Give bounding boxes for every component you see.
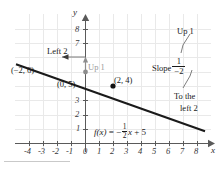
x-tick-neg1: -1 (66, 147, 73, 156)
equation-plus: + (134, 127, 139, 137)
slope-word: Slope (152, 63, 171, 73)
equation-fraction: 12 (122, 123, 128, 140)
slope-denominator: −2 (172, 67, 185, 76)
x-tick-6: 6 (166, 147, 170, 156)
point-label-0-5: (0, 5) (57, 80, 75, 89)
annotation-left-2-right: left 2 (180, 104, 198, 113)
function-equation: f(x) = −12x + 5 (94, 123, 146, 140)
annotation-up-1: Up 1 (177, 27, 194, 36)
y-tick-3: 3 (75, 96, 79, 105)
y-axis-label: y (73, 8, 77, 17)
x-tick-3: 3 (124, 147, 128, 156)
x-axis-label: x (211, 146, 215, 155)
annotation-slope: Slope1−2 (152, 57, 185, 77)
x-tick-5: 5 (152, 147, 156, 156)
annotation-left-2: Left 2 (47, 47, 68, 56)
construction-arrows (62, 54, 88, 72)
footer-divider (4, 161, 70, 162)
y-tick-7: 7 (75, 39, 79, 48)
x-tick-neg4: -4 (24, 147, 31, 156)
equation-equals: = (109, 127, 114, 137)
annotation-up-1-gray: Up 1 (88, 63, 105, 72)
y-tick-8: 8 (75, 25, 79, 34)
point-label-2-4: (2, 4) (114, 76, 132, 85)
x-tick-0: 0 (83, 147, 87, 156)
y-tick-1: 1 (76, 124, 80, 133)
x-tick-4: 4 (138, 147, 142, 156)
graph-figure: y x 8 7 3 2 1 -4 -3 -2 -1 0 1 2 3 4 5 6 … (0, 0, 221, 171)
x-tick-2: 2 (110, 147, 114, 156)
x-tick-neg2: -2 (52, 147, 59, 156)
x-tick-7: 7 (180, 147, 184, 156)
x-tick-neg3: -3 (38, 147, 45, 156)
y-axis (82, 14, 89, 152)
equation-fx: f(x) (94, 127, 107, 137)
equation-denominator: 2 (122, 132, 128, 140)
slope-fraction: 1−2 (172, 57, 185, 77)
annotation-to-the: To the (174, 92, 195, 101)
equation-variable: x (128, 127, 132, 137)
equation-minus: − (116, 127, 121, 137)
equation-constant: 5 (141, 127, 146, 137)
point-label-neg2-6: (−2, 6) (11, 66, 34, 75)
x-tick-1: 1 (97, 147, 101, 156)
x-tick-8: 8 (194, 147, 198, 156)
y-tick-2: 2 (75, 110, 79, 119)
